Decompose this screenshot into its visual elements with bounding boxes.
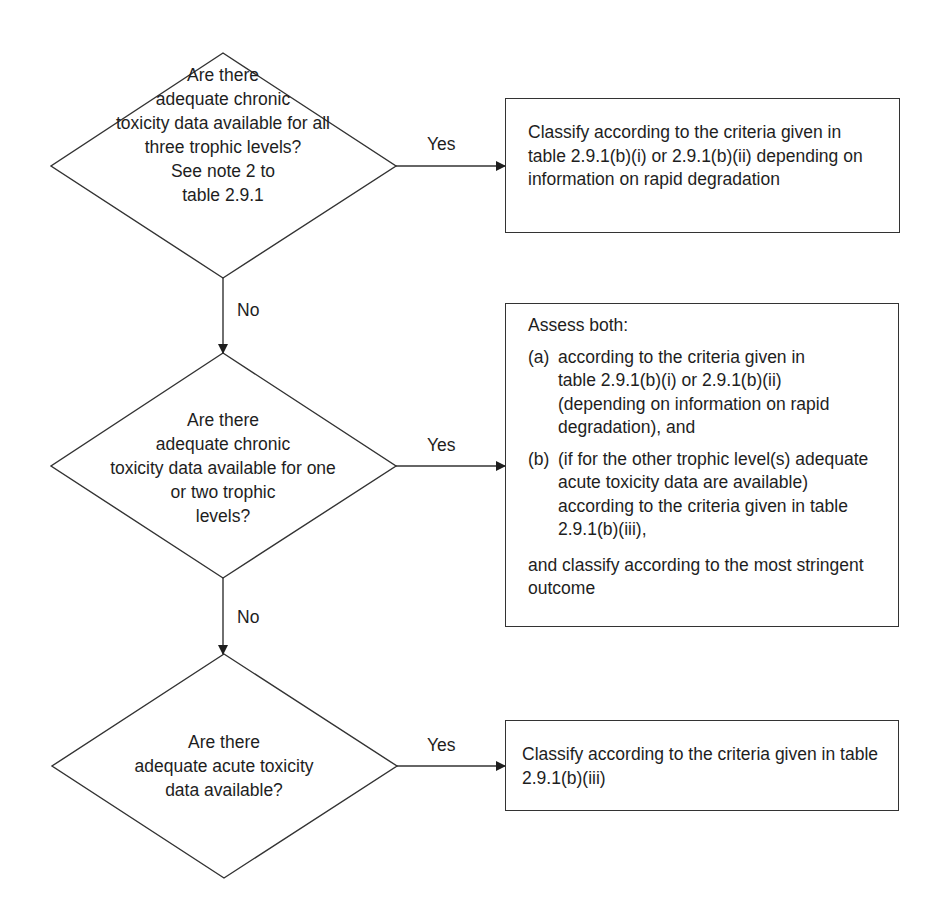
decision-1-line: adequate chronic	[73, 87, 373, 111]
yes-label-3: Yes	[427, 735, 456, 755]
decision-2-line: adequate chronic	[73, 432, 373, 456]
item-text: according to the criteria given in table…	[558, 346, 843, 440]
decision-1-line: toxicity data available for all	[73, 111, 373, 135]
outcome-box-2: Assess both: (a) according to the criter…	[505, 303, 899, 627]
item-marker: (b)	[528, 448, 558, 542]
decision-3-text: Are there adequate acute toxicity data a…	[74, 730, 374, 802]
outcome-box-3: Classify according to the criteria given…	[505, 720, 899, 811]
decision-1-line: three trophic levels?	[73, 135, 373, 159]
outcome-box-2-item-a: (a) according to the criteria given in t…	[528, 346, 880, 440]
outcome-box-2-item-b: (b) (if for the other trophic level(s) a…	[528, 448, 880, 542]
decision-2-text: Are there adequate chronic toxicity data…	[73, 408, 373, 528]
decision-1-line: See note 2 to	[73, 159, 373, 183]
decision-2-line: levels?	[73, 504, 373, 528]
outcome-box-2-intro: Assess both:	[528, 314, 880, 338]
outcome-box-1-text: Classify according to the criteria given…	[528, 121, 868, 192]
outcome-box-2-outro: and classify according to the most strin…	[528, 554, 868, 601]
no-label-1: No	[237, 300, 259, 320]
decision-2-line: or two trophic	[73, 480, 373, 504]
decision-1-text: Are there adequate chronic toxicity data…	[73, 63, 373, 207]
decision-2-line: toxicity data available for one	[73, 456, 373, 480]
yes-label-1: Yes	[427, 134, 456, 154]
decision-1-line: table 2.9.1	[73, 183, 373, 207]
yes-label-2: Yes	[427, 435, 456, 455]
outcome-box-1: Classify according to the criteria given…	[505, 98, 900, 233]
outcome-box-3-text: Classify according to the criteria given…	[522, 743, 887, 790]
decision-2-line: Are there	[73, 408, 373, 432]
decision-3-line: adequate acute toxicity	[74, 754, 374, 778]
decision-3-line: Are there	[74, 730, 374, 754]
decision-1-line: Are there	[73, 63, 373, 87]
no-label-2: No	[237, 607, 259, 627]
item-text: (if for the other trophic level(s) adequ…	[558, 448, 878, 542]
decision-3-line: data available?	[74, 778, 374, 802]
item-marker: (a)	[528, 346, 558, 440]
